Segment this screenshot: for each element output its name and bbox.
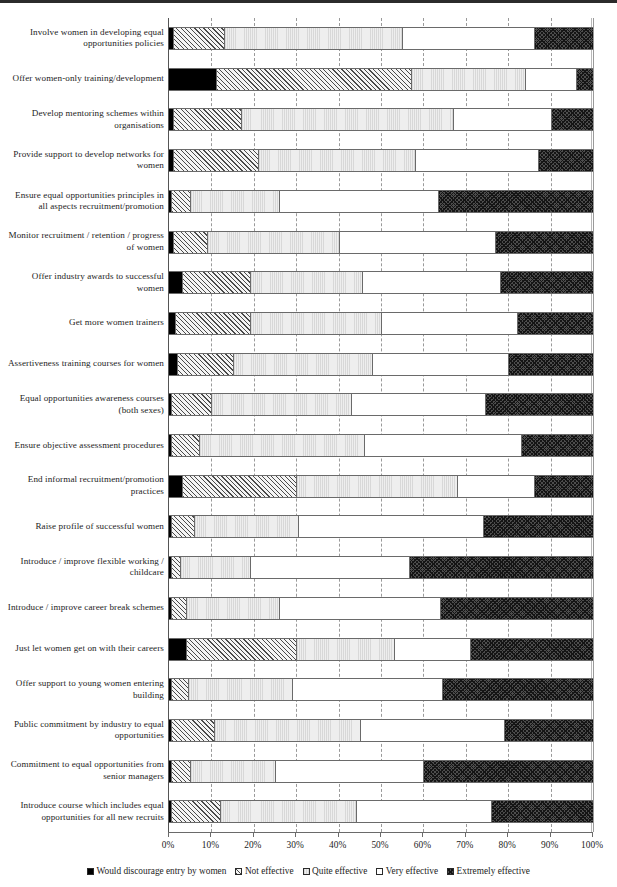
bar-segment[interactable] (500, 272, 593, 293)
bar-segment[interactable] (194, 516, 298, 537)
bar-segment[interactable] (298, 516, 482, 537)
bar-segment[interactable] (211, 394, 351, 415)
bar-segment[interactable] (173, 232, 207, 253)
bar-segment[interactable] (394, 639, 470, 660)
legend-item[interactable]: Extremely effective (447, 866, 530, 876)
bar-segment[interactable] (171, 801, 220, 822)
bar-segment[interactable] (504, 720, 593, 741)
bar-segment[interactable] (173, 109, 241, 130)
bar-segment[interactable] (173, 150, 258, 171)
bar-segment[interactable] (402, 28, 533, 49)
bar-segment[interactable] (175, 313, 249, 334)
stacked-bar[interactable] (169, 27, 593, 50)
bar-segment[interactable] (220, 801, 356, 822)
stacked-bar[interactable] (169, 190, 593, 213)
bar-segment[interactable] (576, 69, 593, 90)
bar-segment[interactable] (258, 150, 415, 171)
bar-segment[interactable] (381, 313, 517, 334)
bar-segment[interactable] (182, 272, 250, 293)
bar-segment[interactable] (485, 394, 593, 415)
bar-segment[interactable] (495, 232, 593, 253)
bar-segment[interactable] (339, 232, 496, 253)
stacked-bar[interactable] (169, 556, 593, 579)
legend-item[interactable]: Would discourage entry by women (87, 866, 226, 876)
stacked-bar[interactable] (169, 638, 593, 661)
bar-segment[interactable] (411, 69, 525, 90)
bar-segment[interactable] (224, 28, 402, 49)
bar-segment[interactable] (275, 761, 423, 782)
bar-segment[interactable] (551, 109, 593, 130)
bar-segment[interactable] (279, 598, 440, 619)
bar-segment[interactable] (214, 720, 360, 741)
bar-segment[interactable] (171, 679, 188, 700)
legend-item[interactable]: Quite effective (303, 866, 368, 876)
stacked-bar[interactable] (169, 68, 593, 91)
stacked-bar[interactable] (169, 597, 593, 620)
bar-segment[interactable] (188, 679, 292, 700)
bar-segment[interactable] (207, 232, 338, 253)
bar-segment[interactable] (171, 557, 179, 578)
bar-segment[interactable] (356, 801, 492, 822)
bar-segment[interactable] (199, 435, 364, 456)
bar-segment[interactable] (171, 394, 211, 415)
bar-segment[interactable] (233, 354, 373, 375)
bar-segment[interactable] (169, 639, 186, 660)
bar-segment[interactable] (182, 476, 296, 497)
bar-segment[interactable] (190, 191, 279, 212)
bar-segment[interactable] (216, 69, 411, 90)
bar-segment[interactable] (171, 191, 190, 212)
stacked-bar[interactable] (169, 149, 593, 172)
bar-segment[interactable] (171, 720, 213, 741)
bar-segment[interactable] (171, 598, 186, 619)
stacked-bar[interactable] (169, 515, 593, 538)
stacked-bar[interactable] (169, 800, 593, 823)
bar-segment[interactable] (241, 109, 453, 130)
stacked-bar[interactable] (169, 719, 593, 742)
bar-segment[interactable] (440, 598, 593, 619)
bar-segment[interactable] (508, 354, 593, 375)
bar-segment[interactable] (409, 557, 593, 578)
bar-segment[interactable] (415, 150, 538, 171)
stacked-bar[interactable] (169, 760, 593, 783)
bar-segment[interactable] (169, 69, 216, 90)
bar-segment[interactable] (292, 679, 443, 700)
bar-segment[interactable] (483, 516, 593, 537)
bar-segment[interactable] (186, 639, 296, 660)
bar-segment[interactable] (351, 394, 485, 415)
stacked-bar[interactable] (169, 434, 593, 457)
legend-item[interactable]: Very effective (376, 866, 438, 876)
bar-segment[interactable] (442, 679, 593, 700)
bar-segment[interactable] (453, 109, 551, 130)
bar-segment[interactable] (177, 354, 232, 375)
bar-segment[interactable] (423, 761, 593, 782)
bar-segment[interactable] (250, 313, 381, 334)
bar-segment[interactable] (169, 272, 182, 293)
bar-segment[interactable] (171, 761, 190, 782)
bar-segment[interactable] (525, 69, 576, 90)
bar-segment[interactable] (372, 354, 508, 375)
bar-segment[interactable] (534, 28, 593, 49)
bar-segment[interactable] (169, 476, 182, 497)
bar-segment[interactable] (538, 150, 593, 171)
bar-segment[interactable] (173, 28, 224, 49)
stacked-bar[interactable] (169, 353, 593, 376)
stacked-bar[interactable] (169, 312, 593, 335)
bar-segment[interactable] (171, 435, 199, 456)
bar-segment[interactable] (180, 557, 250, 578)
bar-segment[interactable] (171, 516, 194, 537)
bar-segment[interactable] (190, 761, 275, 782)
bar-segment[interactable] (438, 191, 593, 212)
bar-segment[interactable] (457, 476, 533, 497)
stacked-bar[interactable] (169, 678, 593, 701)
bar-segment[interactable] (521, 435, 593, 456)
bar-segment[interactable] (517, 313, 593, 334)
bar-segment[interactable] (534, 476, 593, 497)
bar-segment[interactable] (491, 801, 593, 822)
legend-item[interactable]: Not effective (235, 866, 293, 876)
bar-segment[interactable] (296, 476, 457, 497)
bar-segment[interactable] (470, 639, 593, 660)
bar-segment[interactable] (186, 598, 279, 619)
stacked-bar[interactable] (169, 271, 593, 294)
bar-segment[interactable] (169, 354, 177, 375)
bar-segment[interactable] (250, 272, 362, 293)
